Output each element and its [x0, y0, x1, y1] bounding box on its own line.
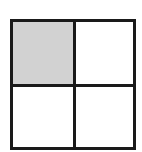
cell-top-left-shaded — [13, 22, 73, 84]
horizontal-divider — [13, 84, 133, 87]
cell-bottom-right — [76, 87, 133, 147]
cell-top-right — [76, 22, 133, 84]
two-by-two-grid — [10, 19, 136, 150]
cell-bottom-left — [13, 87, 73, 147]
